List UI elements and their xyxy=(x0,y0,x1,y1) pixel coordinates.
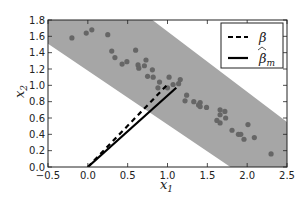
data-point xyxy=(84,30,89,35)
data-point xyxy=(217,112,222,117)
y-tick-label: 1.2 xyxy=(29,64,45,75)
data-point xyxy=(170,82,175,87)
data-point xyxy=(241,137,246,142)
data-point xyxy=(176,81,181,86)
y-tick-label: 0.0 xyxy=(29,162,45,173)
y-tick-label: 0.2 xyxy=(29,145,45,156)
data-point xyxy=(155,85,160,90)
legend: β βm xyxy=(221,23,283,68)
data-point xyxy=(124,59,129,64)
data-point xyxy=(245,122,250,127)
data-point xyxy=(238,132,243,137)
data-point xyxy=(222,109,227,114)
data-point xyxy=(151,75,156,80)
data-point xyxy=(150,67,155,72)
y-tick-label: 0.4 xyxy=(29,129,45,140)
data-point xyxy=(133,48,138,53)
data-point xyxy=(198,104,203,109)
data-point xyxy=(105,32,110,37)
data-point xyxy=(223,115,228,120)
data-point xyxy=(119,62,124,67)
x-tick-label: 1.5 xyxy=(199,170,215,181)
data-point xyxy=(217,107,222,112)
x-tick-label: 0.5 xyxy=(120,170,136,181)
x-tick-label: 0.0 xyxy=(80,170,96,181)
data-point xyxy=(69,35,74,40)
y-tick-label: 0.8 xyxy=(29,96,45,107)
data-point xyxy=(182,98,187,103)
data-point xyxy=(252,135,257,140)
data-point xyxy=(184,93,189,98)
y-tick-label: 0.6 xyxy=(29,113,45,124)
data-point xyxy=(204,105,209,110)
y-tick-label: 1.6 xyxy=(29,31,45,42)
data-point xyxy=(268,151,273,156)
data-point xyxy=(166,75,171,80)
x-tick-label: 2.5 xyxy=(279,170,295,181)
y-tick-label: 1.4 xyxy=(29,47,45,58)
y-axis-label: x2 xyxy=(12,85,29,98)
data-point xyxy=(217,120,222,125)
data-point xyxy=(229,128,234,133)
legend-label-beta: β xyxy=(258,30,267,45)
y-tick-label: 1.0 xyxy=(29,80,45,91)
data-point xyxy=(112,55,117,60)
chart: −0.50.00.51.01.52.02.5 0.00.20.40.60.81.… xyxy=(0,0,306,199)
data-point xyxy=(157,79,162,84)
data-point xyxy=(143,57,148,62)
data-point xyxy=(145,74,150,79)
y-tick-label: 1.8 xyxy=(29,15,45,26)
data-point xyxy=(109,48,114,53)
x-tick-label: 2.0 xyxy=(239,170,255,181)
data-point xyxy=(142,63,147,68)
data-point xyxy=(136,66,141,71)
data-point xyxy=(89,27,94,32)
data-point xyxy=(191,99,196,104)
